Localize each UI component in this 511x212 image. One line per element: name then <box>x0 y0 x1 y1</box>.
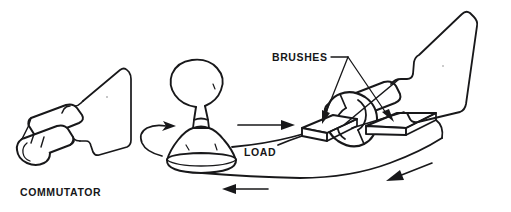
lamp-load <box>167 60 236 173</box>
load-label: LOAD <box>244 146 276 158</box>
brush-commutator-assembly <box>278 12 477 147</box>
current-arrow-top <box>238 120 295 130</box>
commutator <box>17 104 83 165</box>
commutator-label: COMMUTATOR <box>20 186 101 198</box>
diagram-canvas: COMMUTATOR BRUSHES LOAD <box>0 0 511 212</box>
brushes-label: BRUSHES <box>272 51 328 63</box>
commutator-diagram: COMMUTATOR BRUSHES LOAD <box>0 0 511 212</box>
